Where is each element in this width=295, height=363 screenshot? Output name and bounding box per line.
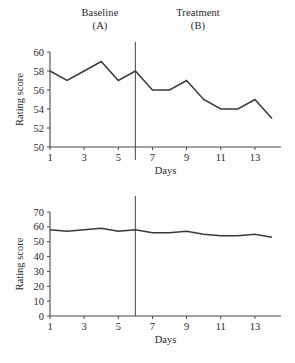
y-tick-label: 20	[34, 281, 45, 292]
phase-treatment-code: (B)	[150, 19, 246, 32]
x-tick-label: 13	[250, 152, 261, 163]
y-tick-label: 60	[34, 221, 45, 232]
y-tick-label: 58	[34, 66, 45, 77]
y-tick-label: 54	[34, 104, 45, 115]
x-tick-label: 9	[184, 152, 189, 163]
x-axis-title: Days	[155, 334, 177, 345]
line-chart-bottom: 010203040506070135791113DaysRating score	[0, 196, 295, 363]
phase-label-treatment: Treatment (B)	[150, 6, 246, 32]
figure-container: Baseline (A) Treatment (B) 5052545658601…	[0, 0, 295, 363]
chart-panel-top: 505254565860135791113DaysRating score	[0, 42, 295, 181]
line-chart-top: 505254565860135791113DaysRating score	[0, 42, 295, 181]
x-tick-label: 5	[116, 321, 121, 332]
x-tick-label: 11	[216, 152, 226, 163]
y-tick-label: 70	[34, 207, 45, 218]
y-tick-label: 50	[34, 236, 45, 247]
x-tick-label: 1	[47, 152, 52, 163]
y-axis-title: Rating score	[14, 73, 25, 126]
x-tick-label: 7	[150, 152, 155, 163]
phase-label-baseline: Baseline (A)	[62, 6, 138, 32]
y-tick-label: 30	[34, 266, 45, 277]
chart-panel-bottom: 010203040506070135791113DaysRating score	[0, 196, 295, 363]
data-series-line	[50, 228, 272, 237]
x-axis-title: Days	[155, 165, 177, 176]
phase-treatment-name: Treatment	[150, 6, 246, 19]
y-tick-label: 56	[34, 85, 45, 96]
x-tick-label: 3	[82, 321, 87, 332]
y-tick-label: 50	[34, 142, 45, 153]
x-tick-label: 5	[116, 152, 121, 163]
phase-baseline-name: Baseline	[62, 6, 138, 19]
phase-headers: Baseline (A) Treatment (B)	[0, 6, 295, 42]
y-tick-label: 10	[34, 296, 45, 307]
y-axis-title: Rating score	[14, 237, 25, 290]
y-tick-label: 60	[34, 47, 45, 58]
phase-baseline-code: (A)	[62, 19, 138, 32]
x-tick-label: 7	[150, 321, 155, 332]
y-tick-label: 40	[34, 251, 45, 262]
x-tick-label: 11	[216, 321, 226, 332]
x-tick-label: 9	[184, 321, 189, 332]
y-tick-label: 0	[39, 311, 44, 322]
x-tick-label: 3	[82, 152, 87, 163]
data-series-line	[50, 62, 272, 119]
y-tick-label: 52	[34, 123, 45, 134]
x-tick-label: 1	[47, 321, 52, 332]
x-tick-label: 13	[250, 321, 261, 332]
